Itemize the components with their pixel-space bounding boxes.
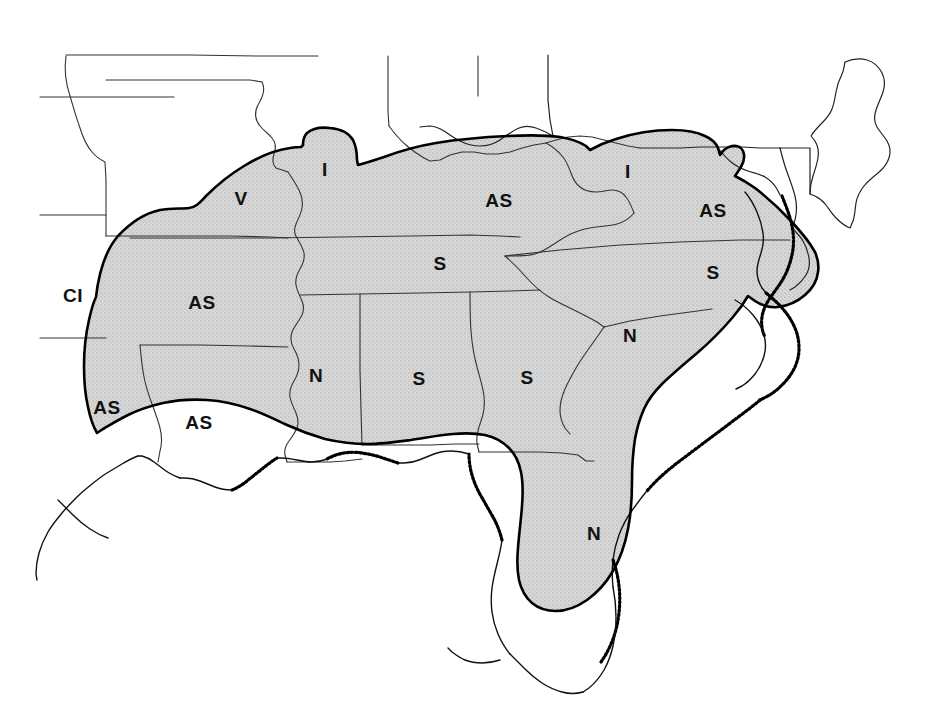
region-label-louisiana-as: AS <box>185 413 212 432</box>
map-graphic <box>0 0 925 714</box>
coastline-florida-east <box>583 587 616 692</box>
coastline-florida-south <box>510 654 583 694</box>
coastline-fringe-mississippi-delta <box>232 458 277 490</box>
coastline-northcarolina-sounds <box>735 300 766 389</box>
region-label-southcarolina-n: N <box>623 326 637 345</box>
state-border-missouri-iowa <box>106 80 262 82</box>
coastline-florida-keys <box>448 648 500 663</box>
region-label-kentucky-as: AS <box>485 191 512 210</box>
state-border-kansas-missouri <box>65 56 106 236</box>
region-label-georgia-s: S <box>520 368 533 387</box>
coastline-gulf-alabama-mississippi <box>277 458 327 462</box>
region-label-tennessee-s: S <box>433 254 446 273</box>
region-label-texas-as: AS <box>93 398 120 417</box>
region-label-northcarolina-s: S <box>706 263 719 282</box>
coastline-louisiana-delta <box>180 478 232 490</box>
state-border-kansas-north <box>66 55 318 56</box>
distribution-map-figure: CI AS AS AS V I N S S AS S I N N AS S <box>0 0 925 714</box>
state-border-westvirginia-pennsylvania-west <box>548 55 553 136</box>
coastline-texas-gulf <box>36 456 138 580</box>
region-label-westvirginia-i: I <box>625 162 631 181</box>
coastline-florida-gulf-west <box>491 540 510 654</box>
state-outline-newjersey <box>810 59 890 228</box>
coastline-texas-barrier-islands <box>58 500 108 538</box>
coastline-florida-bigbend <box>398 451 469 463</box>
region-label-illinois-i: I <box>322 160 328 179</box>
region-label-virginia-as: AS <box>699 201 726 220</box>
coastline-fringe-southeast-atlantic <box>646 400 760 492</box>
state-border-delaware <box>780 148 810 194</box>
region-label-florida-n: N <box>587 524 601 543</box>
region-label-mississippi-n: N <box>309 366 323 385</box>
coastline-fringe-florida-gulf <box>469 454 502 540</box>
state-border-illinois-indiana <box>388 56 389 126</box>
region-label-missouri-v: V <box>234 189 247 208</box>
region-label-alabama-s: S <box>412 369 425 388</box>
region-label-oklahoma-ci: CI <box>63 286 83 305</box>
region-label-arkansas-as: AS <box>188 293 215 312</box>
